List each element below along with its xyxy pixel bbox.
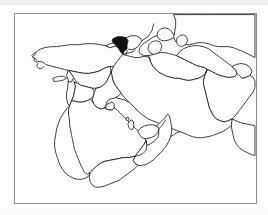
outline-map xyxy=(15,14,256,203)
scan-band-top xyxy=(0,0,268,5)
country-pakistan xyxy=(231,119,255,156)
bahrain-island xyxy=(126,117,129,121)
page-canvas xyxy=(0,0,268,215)
scan-band-bottom xyxy=(0,208,268,215)
map-frame xyxy=(14,13,257,204)
kazakhstan-caspian-coast xyxy=(157,28,174,41)
island-cyprus xyxy=(53,76,67,81)
country-uae xyxy=(138,125,159,139)
country-qatar xyxy=(128,120,134,130)
arabian-sea-coast xyxy=(171,132,180,137)
